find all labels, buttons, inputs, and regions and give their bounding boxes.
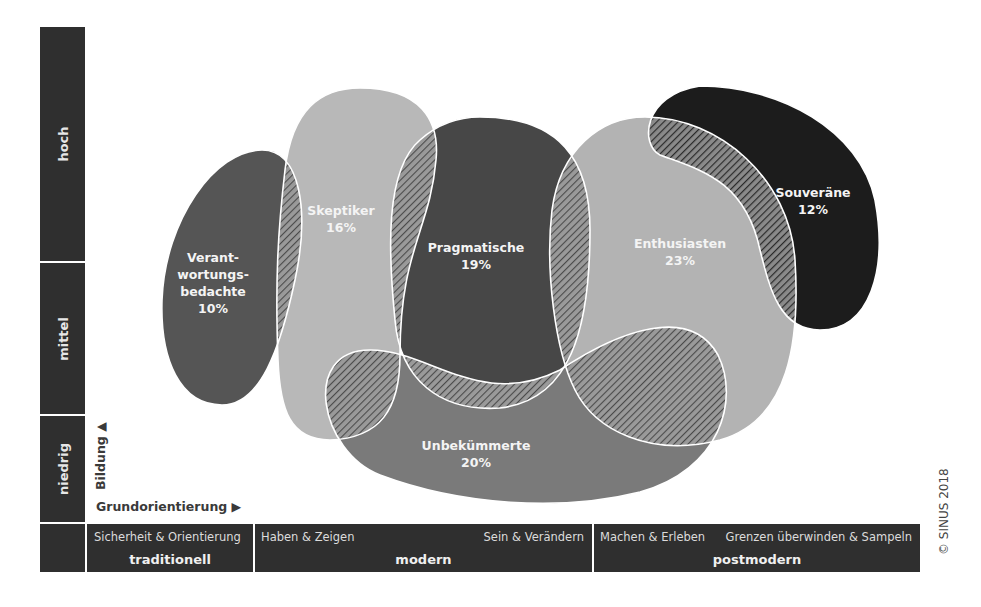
- label-skeptiker-pct: 16%: [326, 220, 356, 235]
- label-souveraene: Souveräne: [775, 185, 850, 200]
- label-pragmatische-pct: 19%: [461, 257, 491, 272]
- label-unbekuemmerte: Unbekümmerte: [422, 438, 531, 453]
- segment-diagram: Verant- wortungs- bedachte 10% Skeptiker…: [0, 0, 981, 607]
- label-verant-2: wortungs-: [177, 267, 249, 282]
- label-skeptiker: Skeptiker: [307, 203, 375, 218]
- label-pragmatische: Pragmatische: [428, 240, 525, 255]
- label-verant-1: Verant-: [187, 250, 239, 265]
- label-enthusiasten-pct: 23%: [665, 253, 695, 268]
- label-souveraene-pct: 12%: [798, 202, 828, 217]
- label-verant-3: bedachte: [180, 284, 246, 299]
- label-enthusiasten: Enthusiasten: [634, 236, 726, 251]
- label-verant-pct: 10%: [198, 301, 228, 316]
- label-unbekuemmerte-pct: 20%: [461, 455, 491, 470]
